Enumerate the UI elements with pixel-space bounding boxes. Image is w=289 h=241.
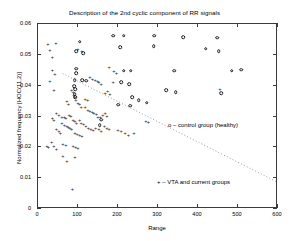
y-tick-mark-right bbox=[273, 23, 277, 24]
x-tick-label: 300 bbox=[152, 211, 161, 217]
y-tick-mark bbox=[37, 23, 41, 24]
x-tick-mark-top bbox=[277, 23, 278, 27]
y-tick-mark-right bbox=[273, 177, 277, 178]
x-tick-mark bbox=[157, 204, 158, 208]
y-tick-mark-right bbox=[273, 85, 277, 86]
x-tick-mark-top bbox=[77, 23, 78, 27]
x-tick-label: 100 bbox=[72, 211, 81, 217]
y-tick-label: 0 bbox=[0, 205, 31, 211]
x-tick-mark bbox=[77, 204, 78, 208]
y-tick-mark-right bbox=[273, 208, 277, 209]
y-axis-title: Normalized frequency [HOC(11,2)] bbox=[16, 43, 22, 193]
x-tick-mark bbox=[277, 204, 278, 208]
x-tick-mark bbox=[197, 204, 198, 208]
chart-figure: Description of the 2nd cyclic component … bbox=[0, 0, 289, 241]
y-tick-mark bbox=[37, 208, 41, 209]
x-tick-mark-top bbox=[197, 23, 198, 27]
x-tick-mark bbox=[237, 204, 238, 208]
y-tick-mark-right bbox=[273, 116, 277, 117]
y-tick-mark-right bbox=[273, 146, 277, 147]
y-tick-mark bbox=[37, 85, 41, 86]
y-tick-mark bbox=[37, 54, 41, 55]
x-tick-label: 0 bbox=[35, 211, 38, 217]
y-tick-mark bbox=[37, 116, 41, 117]
chart-title: Description of the 2nd cyclic component … bbox=[0, 9, 289, 16]
x-tick-label: 400 bbox=[192, 211, 201, 217]
y-tick-label: 0.06 bbox=[0, 20, 31, 26]
x-tick-mark-top bbox=[117, 23, 118, 27]
legend-item-control-group: o – control group (healthy) bbox=[168, 122, 238, 128]
x-tick-label: 600 bbox=[272, 211, 281, 217]
x-axis-title: Range bbox=[37, 225, 277, 231]
x-tick-label: 200 bbox=[112, 211, 121, 217]
y-tick-mark bbox=[37, 177, 41, 178]
legend-item-vta-group: + – VTA and current groups bbox=[157, 179, 230, 185]
x-tick-label: 500 bbox=[232, 211, 241, 217]
x-tick-mark bbox=[117, 204, 118, 208]
y-tick-mark-right bbox=[273, 54, 277, 55]
x-tick-mark-top bbox=[157, 23, 158, 27]
y-tick-mark bbox=[37, 146, 41, 147]
x-tick-mark-top bbox=[237, 23, 238, 27]
